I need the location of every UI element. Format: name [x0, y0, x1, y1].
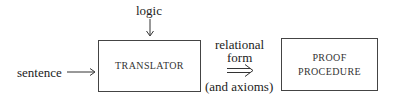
logic-arrow-icon [147, 19, 154, 36]
edge-label-form: form [227, 51, 252, 64]
edge-label-axioms: (and axioms) [205, 80, 273, 93]
sentence-label: sentence [17, 66, 62, 79]
proof-label-line1: PROOF [312, 51, 346, 65]
double-arrow-icon [227, 65, 253, 77]
logic-label: logic [136, 4, 162, 17]
proof-procedure-box: PROOF PROCEDURE [281, 38, 378, 91]
sentence-arrow-icon [67, 69, 95, 76]
translator-label: TRANSLATOR [115, 59, 184, 73]
translator-box: TRANSLATOR [98, 40, 201, 92]
proof-label-line2: PROCEDURE [298, 65, 361, 79]
